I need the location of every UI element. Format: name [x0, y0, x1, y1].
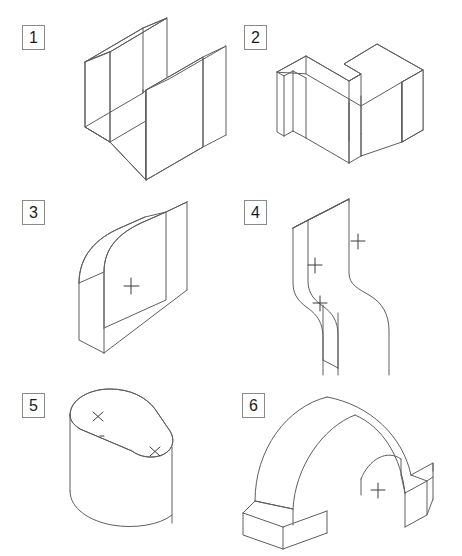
- figure-4-artwork: [231, 185, 462, 375]
- center-mark-plus: [371, 483, 385, 498]
- figure-1: 1: [0, 0, 231, 185]
- figure-1-artwork: [0, 0, 231, 185]
- center-mark-1: [351, 234, 365, 249]
- figure-6: 6: [231, 375, 462, 556]
- figure-5: 5: [0, 375, 231, 556]
- figure-4: 4: [231, 185, 462, 375]
- center-mark-3: [313, 296, 327, 311]
- drawing-sheet: 1: [0, 0, 462, 556]
- figure-2-artwork: [231, 0, 462, 185]
- figure-2: 2: [231, 0, 462, 185]
- figure-6-artwork: [231, 375, 462, 556]
- figure-5-artwork: [0, 375, 231, 556]
- figure-3: 3: [0, 185, 231, 375]
- center-mark-2: [308, 258, 322, 273]
- figure-3-artwork: [0, 185, 231, 375]
